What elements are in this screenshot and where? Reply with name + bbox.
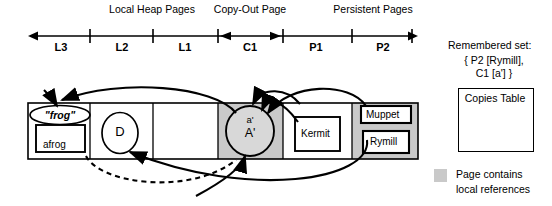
dashed-arrows — [86, 156, 236, 182]
axis-segment-p2: P2 — [368, 42, 398, 53]
axis-segment-l2: L2 — [107, 42, 137, 53]
aprime-circle-label-top: a' — [235, 114, 265, 125]
muppet-box-label: Muppet — [366, 109, 399, 120]
d-circle-label: D — [105, 126, 135, 137]
axis-segment-l1: L1 — [170, 42, 200, 53]
copies-table-label: Copies Table — [458, 93, 532, 104]
frog-ellipse-label: "frog" — [30, 110, 90, 121]
axis-arrow-left — [28, 32, 38, 41]
copyout-arrow-left — [220, 32, 231, 40]
rymill-box-label: Rymill — [370, 136, 397, 147]
axis-group-label-copy-out: Copy-Out Page — [198, 4, 302, 15]
axis-segment-l3: L3 — [46, 42, 76, 53]
afrog-box-label: afrog — [43, 139, 66, 150]
remembered-set-line2: C1 [a'] } — [440, 68, 548, 79]
axis-group — [28, 29, 418, 43]
aprime-circle-label-bottom: A' — [235, 128, 265, 139]
axis-segment-p1: P1 — [301, 42, 331, 53]
axis-group-label-local-heap: Local Heap Pages — [92, 4, 212, 15]
arrow-afrog-dashed — [86, 156, 236, 182]
legend-swatch — [434, 169, 447, 182]
remembered-set-title: Remembered set: — [448, 40, 531, 51]
axis-segment-c1: C1 — [235, 42, 265, 53]
legend-line1: Page contains — [456, 167, 523, 181]
legend-line2: local references — [456, 182, 530, 196]
kermit-box-label: Kermit — [301, 128, 330, 139]
axis-arrow-right — [408, 32, 418, 41]
axis-group-label-persistent: Persistent Pages — [316, 4, 430, 15]
diagram-root: Local Heap Pages Copy-Out Page Persisten… — [0, 0, 552, 206]
remembered-set-line1: { P2 [Rymill], — [440, 55, 548, 66]
copyout-arrow-right — [270, 32, 281, 40]
